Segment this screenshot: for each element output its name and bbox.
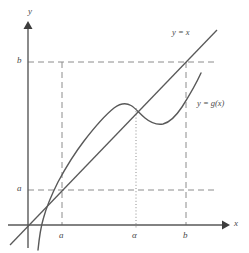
x-tick-label-alpha: α [132, 231, 137, 240]
y-axis-label: y [28, 7, 32, 16]
y-tick-label-a: a [17, 184, 22, 193]
identity-line-label: y = x [172, 28, 190, 37]
x-axis-label: x [234, 219, 238, 228]
x-tick-label-b: b [183, 231, 188, 240]
y-tick-label-b: b [17, 56, 22, 65]
guide-lines [28, 62, 216, 228]
function-fixed-point-diagram: y x b a a α b y = x y = g(x) [0, 0, 249, 253]
diagram-canvas [0, 0, 249, 253]
x-axis-arrowhead [222, 221, 230, 230]
x-tick-label-a: a [59, 231, 64, 240]
function-curve-label: y = g(x) [197, 99, 224, 108]
axes [8, 21, 230, 248]
y-axis-arrowhead [24, 21, 33, 29]
